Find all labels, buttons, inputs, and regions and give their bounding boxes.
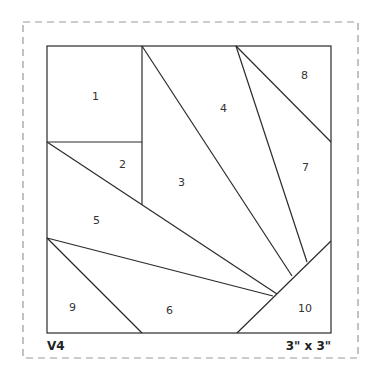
version-label: V4	[47, 339, 65, 353]
piece-label-5: 5	[93, 214, 100, 227]
piece-label-9: 9	[69, 301, 76, 314]
pattern-lines	[47, 46, 331, 333]
piece-label-10: 10	[298, 302, 312, 315]
size-label: 3" x 3"	[286, 339, 331, 353]
piece-7-8-seam	[236, 46, 331, 142]
piece-4-7-seam	[236, 46, 307, 262]
piece-5-6-seam	[47, 238, 273, 296]
piece-label-7: 7	[302, 161, 309, 174]
piece-labels: 1 2 3 4 5 6 7 8 9 10	[69, 69, 312, 317]
piece-10-seam	[237, 241, 331, 333]
piece-label-8: 8	[301, 69, 308, 82]
piece-label-4: 4	[220, 102, 227, 115]
piece-6-9-seam	[47, 238, 142, 333]
piece-2-5-seam	[47, 142, 277, 294]
piece-label-6: 6	[166, 304, 173, 317]
pattern-diagram: 1 2 3 4 5 6 7 8 9 10 V4 3" x 3"	[0, 0, 367, 377]
piece-label-3: 3	[178, 176, 185, 189]
piece-label-2: 2	[119, 158, 126, 171]
block-outline	[47, 46, 331, 333]
piece-label-1: 1	[92, 90, 99, 103]
